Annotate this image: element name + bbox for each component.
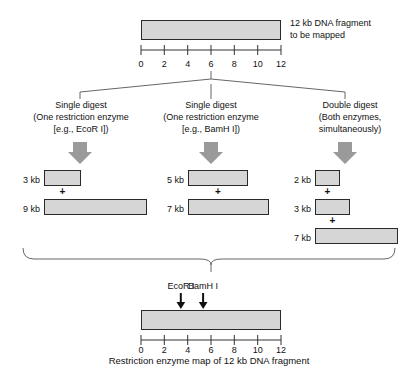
map-site-2-arrow-icon (199, 293, 208, 309)
column-2-fragment-1-label: 5 kb (146, 175, 184, 187)
column-3-fragment-2-bar (315, 199, 350, 215)
top-axis-tick-6: 12 (276, 59, 286, 69)
top-axis-tick-1: 2 (162, 59, 167, 69)
column-2-fragment-2-label: 7 kb (146, 204, 184, 216)
column-1-fragment-1-label: 3 kb (2, 175, 40, 187)
map-axis-tick-0: 0 (138, 345, 143, 355)
map-dna-fragment-bar (141, 310, 281, 330)
map-axis-tick-2: 4 (185, 345, 190, 355)
column-3-fragment-3-bar (315, 228, 398, 244)
map-axis (141, 335, 281, 345)
column-3-fragment-2-label: 3 kb (273, 204, 311, 216)
column-3-separator-1: + (315, 186, 340, 197)
column-3-subtitle-line1: (Both enzymes, (286, 112, 414, 124)
top-fragment-label-line1: 12 kb DNA fragment (290, 18, 371, 30)
column-1-separator-1: + (44, 186, 81, 197)
column-2-subtitle-line1: (One restriction enzyme (140, 112, 282, 124)
column-3-title: Double digest (286, 100, 414, 112)
column-3-down-arrow-icon (333, 142, 357, 164)
column-3-fragment-1-label: 2 kb (273, 175, 311, 187)
column-1-title: Single digest (10, 100, 152, 112)
map-axis-tick-4: 8 (232, 345, 237, 355)
column-2-title: Single digest (140, 100, 282, 112)
top-axis-tick-5: 10 (253, 59, 263, 69)
column-2-fragment-2-bar (188, 199, 269, 215)
top-dna-fragment-bar (141, 20, 281, 40)
map-site-arrows (177, 293, 208, 309)
column-2-fragment-1-bar (188, 170, 248, 186)
map-axis-tick-6: 12 (276, 345, 286, 355)
column-3-fragment-3-label: 7 kb (273, 233, 311, 245)
merge-bracket (23, 248, 395, 272)
map-site-1-arrow-icon (177, 293, 186, 309)
map-axis-tick-3: 6 (208, 345, 213, 355)
figure-caption: Restriction enzyme map of 12 kb DNA frag… (0, 355, 418, 367)
top-axis-tick-2: 4 (185, 59, 190, 69)
column-1-fragment-1-bar (44, 170, 81, 186)
map-axis-tick-1: 2 (162, 345, 167, 355)
map-axis-tick-labels: 0 2 4 6 8 10 12 (138, 345, 286, 355)
column-1-down-arrow-icon (68, 142, 92, 164)
map-axis-tick-5: 10 (253, 345, 263, 355)
column-1-subtitle-line1: (One restriction enzyme (10, 112, 152, 124)
column-3-separator-2: + (315, 215, 350, 226)
top-axis-tick-4: 8 (232, 59, 237, 69)
top-fragment-label-line2: to be mapped (290, 30, 345, 42)
split-bracket (80, 71, 345, 99)
column-3-subtitle-line2: simultaneously) (286, 124, 414, 136)
column-1-fragment-2-label: 9 kb (2, 204, 40, 216)
column-2-subtitle-line2: [e.g., BamH I]) (140, 124, 282, 136)
top-axis-tick-3: 6 (208, 59, 213, 69)
column-3-fragment-1-bar (315, 170, 340, 186)
top-axis-tick-labels: 0 2 4 6 8 10 12 (138, 59, 286, 69)
digest-arrows (68, 142, 357, 164)
map-site-2-label: BamH I (173, 281, 233, 293)
column-1-fragment-2-bar (44, 199, 147, 215)
column-2-down-arrow-icon (199, 142, 223, 164)
column-1-subtitle-line2: [e.g., EcoR I]) (10, 124, 152, 136)
top-axis-tick-0: 0 (138, 59, 143, 69)
top-axis (141, 45, 281, 55)
column-2-separator-1: + (188, 186, 248, 197)
